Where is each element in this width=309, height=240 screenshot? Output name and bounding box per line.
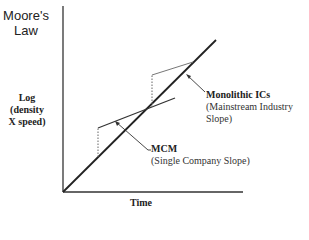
monolithic-annotation: Monolithic ICs (Mainstream Industry Slop…	[206, 89, 309, 125]
mcm-leader	[116, 122, 151, 150]
mcm-segment-1	[98, 98, 175, 128]
mcm-sublabel: (Single Company Slope)	[151, 155, 250, 166]
monolithic-label: Monolithic ICs	[206, 89, 270, 100]
mcm-annotation: MCM (Single Company Slope)	[151, 143, 250, 167]
monolithic-sublabel: (Mainstream Industry Slope)	[206, 101, 293, 124]
x-axis-label: Time	[130, 197, 152, 208]
monolithic-ics-line	[63, 40, 216, 192]
mcm-label: MCM	[151, 143, 177, 154]
